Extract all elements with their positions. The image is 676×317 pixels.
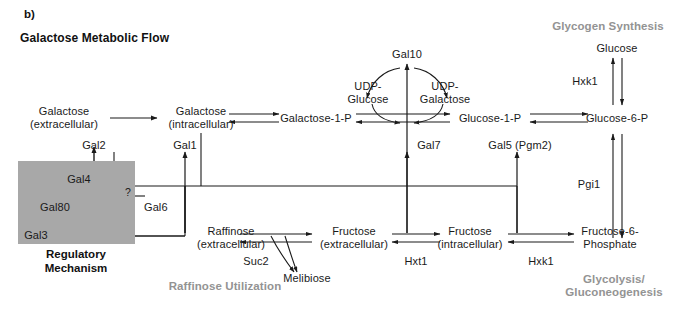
enzyme-gal1: Gal1 xyxy=(163,139,207,152)
node-glucose-1-p: Glucose-1-P xyxy=(448,112,532,125)
node-galactose-intracellular: Galactose (intracellular) xyxy=(155,105,247,131)
section-raffinose-utilization: Raffinose Utilization xyxy=(152,280,298,293)
enzyme-suc2: Suc2 xyxy=(234,255,278,268)
node-glucose: Glucose xyxy=(583,42,651,55)
regulator-gal6: Gal6 xyxy=(144,201,188,214)
enzyme-gal5-pgm2: Gal5 (Pgm2) xyxy=(483,139,557,152)
regulator-gal4: Gal4 xyxy=(57,173,101,186)
node-raffinose-extracellular: Raffinose (extracellular) xyxy=(183,225,279,251)
panel-label: b) xyxy=(24,8,48,21)
regulatory-mechanism-label: Regulatory Mechanism xyxy=(10,248,142,275)
regulator-gal80: Gal80 xyxy=(30,201,80,214)
node-glucose-6-p: Glucose-6-P xyxy=(575,112,659,125)
enzyme-hxk1-bottom: Hxk1 xyxy=(519,255,563,268)
regulator-gal3: Gal3 xyxy=(14,229,58,242)
section-glycolysis-gluconeogenesis: Glycolysis/ Gluconeogenesis xyxy=(552,273,676,299)
enzyme-gal10: Gal10 xyxy=(384,48,430,61)
node-fructose-intracellular: Fructose (intracellular) xyxy=(424,225,516,251)
figure-panel-b: b) Galactose Metabolic Flow Glycogen Syn… xyxy=(0,0,676,317)
figure-title: Galactose Metabolic Flow xyxy=(20,32,220,45)
section-glycogen-synthesis: Glycogen Synthesis xyxy=(540,20,676,33)
enzyme-gal2: Gal2 xyxy=(72,139,116,152)
arrow-melibiose-b xyxy=(285,236,297,272)
node-galactose-1-p: Galactose-1-P xyxy=(274,112,358,125)
enzyme-hxt1: Hxt1 xyxy=(394,255,438,268)
enzyme-hxk1-top: Hxk1 xyxy=(563,75,607,88)
node-udp-glucose: UDP- Glucose xyxy=(336,80,400,106)
node-galactose-extracellular: Galactose (extracellular) xyxy=(18,105,110,131)
node-udp-galactose: UDP- Galactose xyxy=(411,80,479,106)
node-fructose-6-phosphate: Fructose-6- Phosphate xyxy=(568,225,652,251)
unknown-interaction-marker: ? xyxy=(122,186,134,199)
enzyme-pgi1: Pgi1 xyxy=(567,178,611,191)
node-fructose-extracellular: Fructose (extracellular) xyxy=(308,225,400,251)
enzyme-gal7: Gal7 xyxy=(407,139,451,152)
